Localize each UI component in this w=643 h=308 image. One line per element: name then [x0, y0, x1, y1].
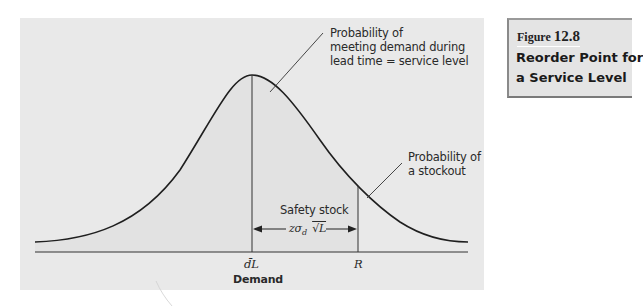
figure-title: Reorder Point for a Service Level [516, 48, 643, 88]
formula-z-sigma: zσ [289, 222, 302, 235]
formula-sqrt-l: √L [312, 222, 326, 235]
reorder-tick-label: R [354, 257, 362, 271]
safety-stock-label: Safety stock [280, 203, 349, 217]
stockout-leader [367, 163, 402, 198]
service-level-line-1: Probability of [330, 26, 468, 40]
figure-caption-box: Figure 12.8 Reorder Point for a Service … [507, 18, 632, 98]
x-axis-label: Demand [233, 273, 283, 287]
figure-title-line-2: a Service Level [516, 68, 643, 88]
pencil-mark [156, 281, 172, 306]
service-level-annotation: Probability of meeting demand during lea… [330, 26, 468, 68]
service-level-line-3: lead time = service level [330, 54, 468, 68]
mean-tick-label: d̄L [244, 257, 259, 271]
figure-number: Figure 12.8 [517, 28, 580, 47]
figure-title-line-1: Reorder Point for [516, 48, 643, 68]
stockout-line-1: Probability of [408, 150, 481, 164]
service-level-line-2: meeting demand during [330, 40, 468, 54]
stockout-line-2: a stockout [408, 164, 481, 178]
stockout-annotation: Probability of a stockout [408, 150, 481, 178]
safety-stock-formula: zσd √L [289, 222, 326, 240]
service-level-leader [270, 33, 323, 92]
figure-prefix: Figure [517, 30, 551, 44]
formula-subscript: d [302, 228, 307, 237]
figure-number-value: 12.8 [554, 28, 580, 44]
